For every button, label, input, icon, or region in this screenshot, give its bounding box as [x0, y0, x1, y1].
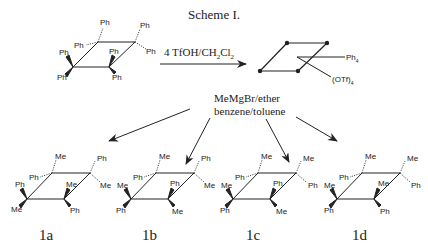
- p1a-c3-up: Ph: [15, 181, 25, 189]
- reagent-part: Cl: [220, 46, 230, 58]
- p1a-c4-down: Ph: [70, 207, 80, 215]
- p1c-c4-down: Me: [276, 208, 287, 216]
- p1b-c1-left: Ph: [133, 174, 143, 182]
- p1d-c2-right: Ph: [411, 182, 421, 190]
- p1c-c2-right: Ph: [308, 182, 318, 190]
- p1c-c1-left: Ph: [235, 174, 245, 182]
- product-1a-structure: [19, 160, 100, 208]
- sm-sub-c1-left: Ph: [74, 42, 84, 50]
- product-1b-structure: [123, 160, 204, 208]
- compound-label-1c: 1c: [246, 228, 260, 243]
- sm-sub-c3-down: Ph: [57, 74, 67, 82]
- product-1c-structure: [225, 160, 306, 208]
- ph-text: Ph: [346, 53, 356, 62]
- reagent-step-2-line1: MeMgBr/ether: [214, 93, 280, 104]
- p1b-c3-up: Me: [117, 182, 128, 190]
- p1c-c3-down: Ph: [220, 207, 230, 215]
- p1b-c1-up: Me: [159, 153, 170, 161]
- compound-label-1d: 1d: [352, 228, 367, 243]
- reagent-step-2-line2: benzene/toluene: [214, 106, 285, 117]
- p1a-c3-down: Me: [11, 206, 22, 214]
- reagent-part: 4 TfOH/CH: [164, 46, 217, 58]
- intermediate-label-ph4: Ph4: [346, 54, 359, 64]
- p1b-c4-down: Me: [172, 208, 183, 216]
- reagent-step-1: 4 TfOH/CH2Cl2: [164, 47, 234, 61]
- p1d-c2-up: Me: [407, 155, 418, 163]
- starting-material-structure: [65, 28, 146, 77]
- p1a-c2-right: Me: [100, 182, 111, 190]
- compound-label-1a: 1a: [39, 228, 53, 243]
- p1a-c2-up: Ph: [97, 155, 107, 163]
- sm-sub-c1-up: Ph: [100, 19, 110, 27]
- p1d-c4-down: Ph: [380, 208, 390, 216]
- sm-sub-c2-right: Ph: [146, 48, 156, 56]
- p1d-c1-left: Ph: [339, 174, 349, 182]
- compound-label-1b: 1b: [142, 228, 157, 243]
- p1c-c4-up: Ph: [273, 180, 283, 188]
- subscript: 2: [231, 53, 235, 61]
- p1c-c1-up: Me: [261, 153, 272, 161]
- sm-sub-c4-down: Ph: [112, 74, 122, 82]
- p1a-c1-up: Me: [55, 153, 66, 161]
- p1a-c1-left: Ph: [29, 174, 39, 182]
- p1b-c4-up: Ph: [170, 180, 180, 188]
- p1b-c3-down: Ph: [116, 207, 126, 215]
- scheme-title: Scheme I.: [188, 8, 240, 21]
- p1d-c3-down: Ph: [324, 207, 334, 215]
- p1d-c3-up: Me: [324, 182, 335, 190]
- scheme-drawing: [0, 0, 428, 251]
- p1b-c2-up: Ph: [201, 155, 211, 163]
- p1d-c1-up: Me: [365, 153, 376, 161]
- sm-sub-c2-up: Ph: [140, 22, 150, 30]
- product-1d-structure: [329, 160, 410, 208]
- sm-sub-c4-up: Ph: [109, 48, 119, 56]
- p1c-c3-up: Me: [221, 182, 232, 190]
- arrow-to-1a: [109, 109, 190, 141]
- sm-sub-c3-up: Ph: [59, 49, 69, 57]
- subscript: 4: [351, 80, 354, 86]
- p1c-c2-up: Me: [303, 155, 314, 163]
- otf-text: (OTf): [332, 75, 351, 84]
- p1a-c4-up: Me: [66, 181, 77, 189]
- intermediate-label-otf4: (OTf)4: [332, 76, 353, 86]
- p1b-c2-right: Me: [204, 182, 215, 190]
- p1d-c4-up: Me: [378, 180, 389, 188]
- subscript: 4: [356, 58, 359, 64]
- arrow-to-1d: [296, 117, 337, 141]
- intermediate-structure: [258, 41, 345, 77]
